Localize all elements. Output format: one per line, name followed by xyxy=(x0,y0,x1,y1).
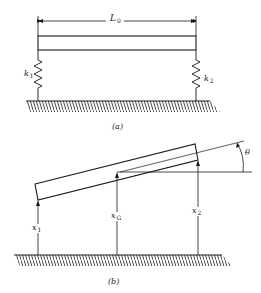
spring-left-icon xyxy=(34,50,42,101)
incline-reference-line xyxy=(120,141,244,172)
label-xg-main: x xyxy=(111,211,116,220)
label-l0-main: L xyxy=(110,13,116,23)
label-k2: k2 xyxy=(204,75,214,84)
label-xg-sub: G xyxy=(117,214,122,221)
label-xg: xG xyxy=(111,212,121,221)
label-k1: k1 xyxy=(24,70,34,79)
spring-right-icon xyxy=(192,50,200,101)
ground-b xyxy=(14,255,232,266)
panel-a xyxy=(26,16,220,112)
beam-rest xyxy=(38,36,196,50)
caption-a: (a) xyxy=(112,123,123,131)
label-k1-main: k xyxy=(24,69,29,78)
label-x2-main: x xyxy=(192,206,197,215)
label-x1-main: x xyxy=(32,223,37,232)
figure-two-spring-beam: L0 k1 k2 (a) x1 xG x2 θ (b) xyxy=(0,0,261,293)
label-x1: x1 xyxy=(32,224,41,233)
label-k1-sub: 1 xyxy=(30,72,34,79)
theta-arc-icon xyxy=(237,143,243,172)
label-x2-sub: 2 xyxy=(198,209,202,216)
label-l0-sub: 0 xyxy=(117,17,121,24)
label-l0: L0 xyxy=(108,14,123,24)
diagram-canvas xyxy=(0,0,261,293)
label-k2-sub: 2 xyxy=(210,77,214,84)
label-k2-main: k xyxy=(204,74,209,83)
label-x2: x2 xyxy=(192,207,201,216)
label-x1-sub: 1 xyxy=(38,226,42,233)
label-theta-text: θ xyxy=(245,148,250,157)
caption-b: (b) xyxy=(108,278,119,286)
label-theta: θ xyxy=(245,149,250,157)
panel-b xyxy=(14,141,252,266)
ground-a xyxy=(26,101,220,112)
